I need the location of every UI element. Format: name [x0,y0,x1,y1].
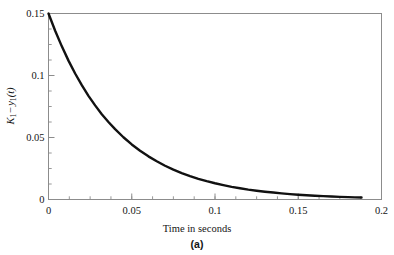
y-tick-label-0: 0 [39,194,44,205]
figure-caption: (a) [191,239,204,250]
x-tick-label-0: 0 [46,206,51,217]
y-axis-var-k: K [5,118,16,125]
chart-plot-area [0,0,394,255]
y-axis-var-y-subscript: 1 [9,97,18,101]
x-axis-title: Time in seconds [163,224,231,235]
y-tick-label-2: 0.1 [31,70,44,81]
x-tick-label-3: 0.15 [289,206,307,217]
y-tick-label-3: 0.15 [26,8,44,19]
x-tick-label-2: 0.1 [208,206,221,217]
y-tick-label-1: 0.05 [26,132,44,143]
x-tick-label-1: 0.05 [123,206,141,217]
y-axis-var-y: y [5,101,16,106]
y-axis-var-k-subscript: 1 [9,114,18,118]
y-axis-minus-sign: − [5,106,16,114]
plot-frame [49,14,382,200]
figure-panel-a: 00.050.10.150.200.050.10.15 Time in seco… [0,0,394,255]
x-tick-label-4: 0.2 [375,206,388,217]
y-axis-var-argument: (t) [5,87,16,97]
y-axis-title: K1−y1(t) [6,87,17,124]
